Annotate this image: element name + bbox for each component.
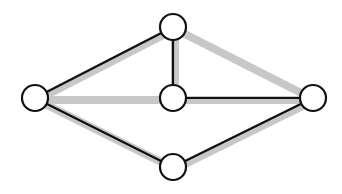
node-bottom (160, 154, 186, 180)
node-right (300, 85, 326, 111)
edge-highlight-bottom-right (175, 100, 315, 169)
edge-highlight-top-right (175, 29, 315, 100)
node-left (22, 85, 48, 111)
node-center (160, 85, 186, 111)
node-top (160, 14, 186, 40)
edge-bottom-right (173, 98, 313, 167)
edge-left-bottom (35, 98, 173, 167)
edge-highlight-top-left (37, 29, 175, 100)
graph-diagram (0, 0, 342, 194)
edge-top-left (35, 27, 173, 98)
